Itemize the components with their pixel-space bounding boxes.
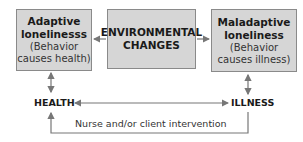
env-title-1: ENVIRONMENTAL (101, 26, 202, 39)
adaptive-note-2: causes health) (17, 53, 90, 65)
adaptive-note-1: (Behavior (30, 41, 78, 53)
environmental-changes-box: ENVIRONMENTAL CHANGES (107, 9, 196, 69)
maladaptive-loneliness-box: Maladaptive loneliness (Behavior causes … (211, 9, 297, 72)
maladaptive-note-2: causes illness) (218, 54, 291, 66)
maladaptive-note-1: (Behavior (230, 42, 278, 54)
maladaptive-title-1: Maladaptive (218, 16, 291, 29)
maladaptive-title-2: loneliness (224, 29, 284, 42)
health-node: HEALTH (34, 97, 75, 108)
adaptive-title-2: lonelinesss (21, 28, 87, 41)
adaptive-title-1: Adaptive (28, 15, 81, 28)
adaptive-loneliness-box: Adaptive lonelinesss (Behavior causes he… (16, 9, 92, 71)
illness-node: ILLNESS (231, 97, 274, 108)
env-title-2: CHANGES (123, 39, 180, 52)
intervention-label: Nurse and/or client intervention (75, 118, 227, 129)
